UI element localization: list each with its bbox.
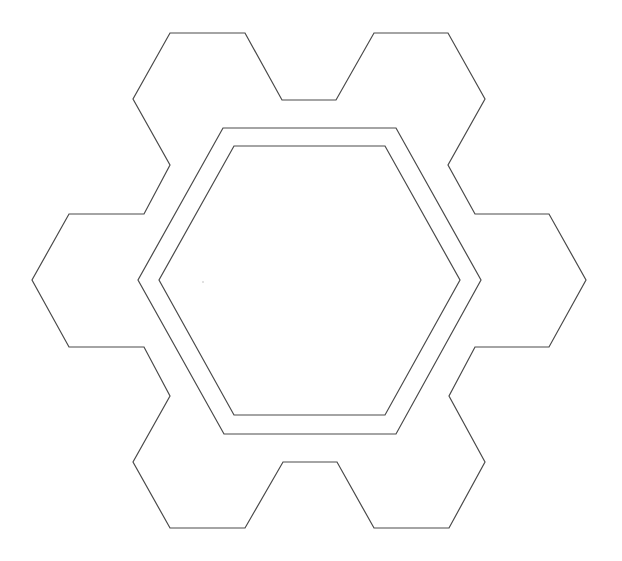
- outer-gear-outline: [32, 33, 586, 528]
- middle-hexagon: [138, 128, 481, 434]
- speck-dot: [202, 281, 204, 283]
- gear-hexagon-diagram: [0, 0, 622, 561]
- inner-hexagon: [159, 146, 460, 415]
